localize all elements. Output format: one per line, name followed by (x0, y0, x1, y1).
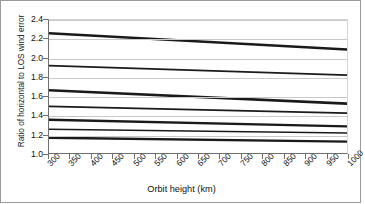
y-tick-label: 2.0 (17, 54, 43, 62)
grid-line (49, 116, 347, 117)
grid-line (49, 97, 347, 98)
grid-line (49, 78, 347, 79)
x-axis-title: Orbit height (km) (1, 184, 362, 194)
y-tick-label: 1.2 (17, 131, 43, 139)
y-tick-label: 1.0 (17, 150, 43, 158)
data-line (49, 106, 347, 113)
y-tick-label: 2.2 (17, 34, 43, 42)
y-tick-label: 1.6 (17, 92, 43, 100)
y-tick-mark (43, 135, 48, 136)
y-tick-mark (43, 96, 48, 97)
y-tick-label: 2.4 (17, 15, 43, 23)
y-tick-mark (43, 154, 48, 155)
y-tick-mark (43, 77, 48, 78)
data-line (49, 129, 347, 133)
plot-area (48, 19, 348, 154)
grid-line (49, 20, 347, 21)
data-line (49, 66, 347, 76)
grid-line (49, 136, 347, 137)
data-line (49, 120, 347, 127)
y-tick-label: 1.4 (17, 111, 43, 119)
y-axis-tick-labels: 1.01.21.41.61.82.02.22.4 (15, 1, 43, 204)
grid-line (49, 59, 347, 60)
y-tick-mark (43, 19, 48, 20)
grid-line (49, 39, 347, 40)
data-line (49, 138, 347, 142)
y-tick-mark (43, 115, 48, 116)
data-line (49, 33, 347, 49)
y-tick-mark (43, 58, 48, 59)
x-tick-label: 1000 (345, 148, 365, 168)
y-tick-label: 1.8 (17, 73, 43, 81)
y-tick-mark (43, 38, 48, 39)
